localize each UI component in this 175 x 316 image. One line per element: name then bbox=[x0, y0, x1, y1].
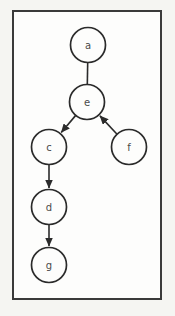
node-c: c bbox=[32, 130, 67, 165]
node-g: g bbox=[32, 248, 67, 283]
node-e: e bbox=[70, 85, 105, 120]
node-a: a bbox=[71, 28, 106, 63]
graph-canvas: aecfdg bbox=[0, 0, 175, 316]
node-label-e: e bbox=[84, 97, 90, 108]
edge-f-e-arrow bbox=[100, 116, 117, 134]
node-d: d bbox=[32, 190, 67, 225]
node-f: f bbox=[112, 130, 147, 165]
node-label-g: g bbox=[46, 260, 52, 271]
node-label-f: f bbox=[127, 142, 131, 153]
figure-page: { "diagram": { "type": "directed-graph",… bbox=[0, 0, 175, 316]
edge-e-c-arrow bbox=[61, 115, 75, 132]
node-label-a: a bbox=[85, 40, 91, 51]
node-label-c: c bbox=[46, 142, 52, 153]
node-label-d: d bbox=[46, 202, 52, 213]
